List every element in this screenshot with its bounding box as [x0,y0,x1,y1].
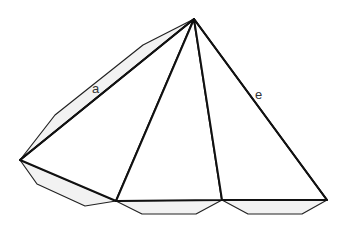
label-e: e [255,87,262,102]
glue-flap-bottom-middle [116,200,222,214]
pyramid-net-diagram: a e [0,0,347,230]
label-a: a [92,81,100,96]
glue-flap-bottom-right [222,200,327,214]
